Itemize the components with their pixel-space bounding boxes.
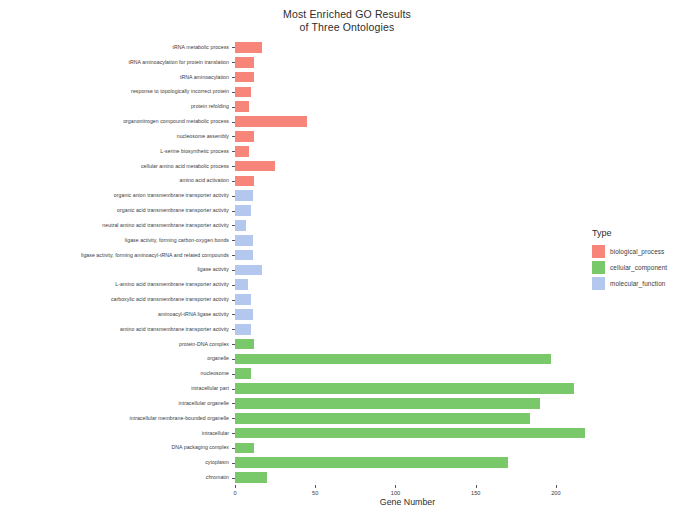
x-axis-tick-label: 50	[312, 490, 318, 496]
legend-label: molecular_function	[610, 280, 665, 287]
y-axis-tick	[232, 211, 235, 212]
y-axis-tick	[232, 300, 235, 301]
legend: Type biological_processcellular_componen…	[592, 228, 667, 292]
bar	[235, 383, 574, 394]
bar	[235, 413, 530, 424]
y-axis-tick	[232, 136, 235, 137]
bar-row	[235, 174, 580, 189]
bar-row	[235, 263, 580, 278]
y-axis-tick	[232, 329, 235, 330]
y-axis-tick-label: organonitrogen compound metabolic proces…	[0, 118, 229, 125]
x-axis-tick	[235, 485, 236, 488]
y-axis-tick	[232, 285, 235, 286]
y-axis-tick-label: amino acid activation	[0, 177, 229, 184]
y-axis-tick-label: protein-DNA complex	[0, 341, 229, 348]
bar	[235, 131, 254, 142]
bar-row	[235, 99, 580, 114]
bar	[235, 220, 246, 231]
y-axis-tick-label: protein refolding	[0, 103, 229, 110]
y-axis-tick	[232, 418, 235, 419]
y-axis-tick-label: organic anion transmembrane transporter …	[0, 192, 229, 199]
legend-item[interactable]: cellular_component	[592, 260, 667, 275]
y-axis-tick	[232, 270, 235, 271]
bar-row	[235, 277, 580, 292]
y-axis-tick	[232, 448, 235, 449]
x-axis-tick	[556, 485, 557, 488]
bar	[235, 398, 540, 409]
bar-row	[235, 441, 580, 456]
y-axis-tick	[232, 62, 235, 63]
y-axis-tick-label: response to topologically incorrect prot…	[0, 88, 229, 95]
bar-row	[235, 455, 580, 470]
y-axis-tick-label: ligase activity, forming aminoacyl-tRNA …	[0, 252, 229, 259]
y-axis-tick	[232, 122, 235, 123]
bar	[235, 265, 262, 276]
bar	[235, 176, 254, 187]
y-axis-tick-label: aminoacyl-tRNA ligase activity	[0, 311, 229, 318]
legend-title: Type	[592, 228, 667, 238]
legend-swatch	[592, 245, 605, 258]
x-axis-tick-label: 0	[233, 490, 236, 496]
plot-area	[235, 40, 580, 485]
bar	[235, 72, 254, 83]
y-axis-tick-label: tRNA aminoacylation for protein translat…	[0, 59, 229, 66]
y-axis-tick-label: nucleosome assembly	[0, 133, 229, 140]
y-axis-tick-label: tRNA aminoacylation	[0, 74, 229, 81]
bar-row	[235, 352, 580, 367]
bar	[235, 235, 253, 246]
bar-row	[235, 85, 580, 100]
bar-row	[235, 411, 580, 426]
bar	[235, 279, 248, 290]
bar	[235, 339, 254, 350]
y-axis-tick-label: cytoplasm	[0, 459, 229, 466]
bar-row	[235, 426, 580, 441]
chart-title: Most Enriched GO Results of Three Ontolo…	[0, 8, 694, 34]
x-axis-tick	[315, 485, 316, 488]
y-axis-tick	[232, 374, 235, 375]
y-axis-tick-label: ligase activity	[0, 266, 229, 273]
bar	[235, 87, 251, 98]
y-axis-tick-label: organelle	[0, 355, 229, 362]
y-axis-tick	[232, 359, 235, 360]
bar	[235, 472, 267, 483]
y-axis-tick	[232, 92, 235, 93]
y-axis-tick	[232, 255, 235, 256]
bar	[235, 309, 253, 320]
bar	[235, 294, 251, 305]
legend-item[interactable]: biological_process	[592, 244, 667, 259]
y-axis-tick	[232, 166, 235, 167]
x-axis-tick	[476, 485, 477, 488]
bar	[235, 101, 249, 112]
bar-row	[235, 188, 580, 203]
bar	[235, 57, 254, 68]
bar	[235, 443, 254, 454]
legend-label: cellular_component	[610, 264, 667, 271]
bar	[235, 368, 251, 379]
y-axis-tick-label: intracellular	[0, 430, 229, 437]
bar-row	[235, 322, 580, 337]
legend-swatch	[592, 277, 605, 290]
y-axis-tick-label: chromatin	[0, 474, 229, 481]
y-axis-tick-label: neutral amino acid transmembrane transpo…	[0, 222, 229, 229]
y-axis-tick	[232, 240, 235, 241]
legend-label: biological_process	[610, 248, 664, 255]
bar-row	[235, 470, 580, 485]
x-axis-tick-label: 100	[391, 490, 400, 496]
y-axis-tick	[232, 478, 235, 479]
legend-item[interactable]: molecular_function	[592, 276, 667, 291]
bar-row	[235, 396, 580, 411]
bar	[235, 42, 262, 53]
bar-row	[235, 233, 580, 248]
bar-row	[235, 337, 580, 352]
bar	[235, 146, 249, 157]
bar	[235, 457, 508, 468]
bar-row	[235, 203, 580, 218]
bar-row	[235, 55, 580, 70]
y-axis-tick	[232, 433, 235, 434]
y-axis-tick	[232, 107, 235, 108]
bar-row	[235, 248, 580, 263]
bar-row	[235, 129, 580, 144]
y-axis-tick-label: L-serine biosynthetic process	[0, 148, 229, 155]
x-axis-tick	[395, 485, 396, 488]
y-axis-tick	[232, 47, 235, 48]
